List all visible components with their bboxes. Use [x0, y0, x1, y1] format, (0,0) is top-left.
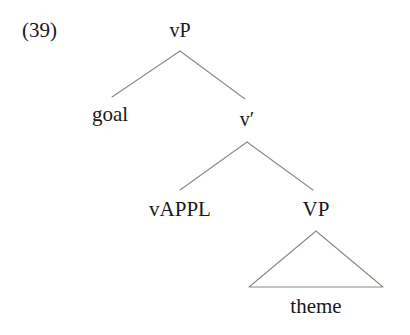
- tree-node-goal: goal: [92, 104, 128, 125]
- branch-vp-to-goal: [112, 51, 180, 97]
- branch-vbar-to-vp: [247, 142, 313, 190]
- tree-node-theme: theme: [290, 296, 341, 317]
- tree-node-vappl: vAPPL: [149, 199, 211, 220]
- tree-node-v-bar: v′: [240, 109, 254, 129]
- syntax-tree-figure: (39) vP goal v′ vAPPL VP theme: [0, 0, 410, 335]
- branch-group: [112, 51, 313, 190]
- example-number: (39): [22, 20, 57, 41]
- branch-vbar-to-vappl: [180, 142, 247, 190]
- tree-branches-svg: [0, 0, 410, 335]
- tree-node-vp: vP: [169, 20, 190, 40]
- tree-node-vp-lower: VP: [303, 199, 330, 220]
- triangle-abbreviation: [249, 231, 383, 287]
- branch-vp-to-vbar: [180, 51, 245, 99]
